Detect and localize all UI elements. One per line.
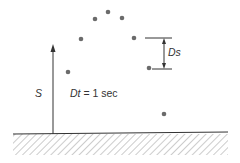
trajectory-dot <box>106 10 111 15</box>
height-label: S <box>35 87 42 99</box>
dt-variable: Dt <box>70 87 81 99</box>
arrow-head-icon <box>51 44 56 52</box>
time-interval-label: Dt = 1 sec <box>70 87 118 99</box>
trajectory-points <box>66 10 167 117</box>
trajectory-dot <box>120 16 125 21</box>
ground-hatching <box>13 134 228 155</box>
trajectory-dot <box>66 70 71 75</box>
height-arrow <box>51 44 56 134</box>
trajectory-dot <box>79 37 84 42</box>
dt-value: = 1 sec <box>81 87 118 99</box>
ground <box>13 132 228 155</box>
ds-label: Ds <box>168 46 181 58</box>
trajectory-dot <box>132 36 137 41</box>
trajectory-dot <box>147 66 152 71</box>
diagram-canvas <box>0 0 240 163</box>
trajectory-dot <box>93 17 98 22</box>
ds-arrow-up-icon <box>162 38 166 44</box>
ds-arrow-down-icon <box>162 63 166 69</box>
ground-line <box>13 132 228 134</box>
trajectory-dot <box>162 112 167 117</box>
